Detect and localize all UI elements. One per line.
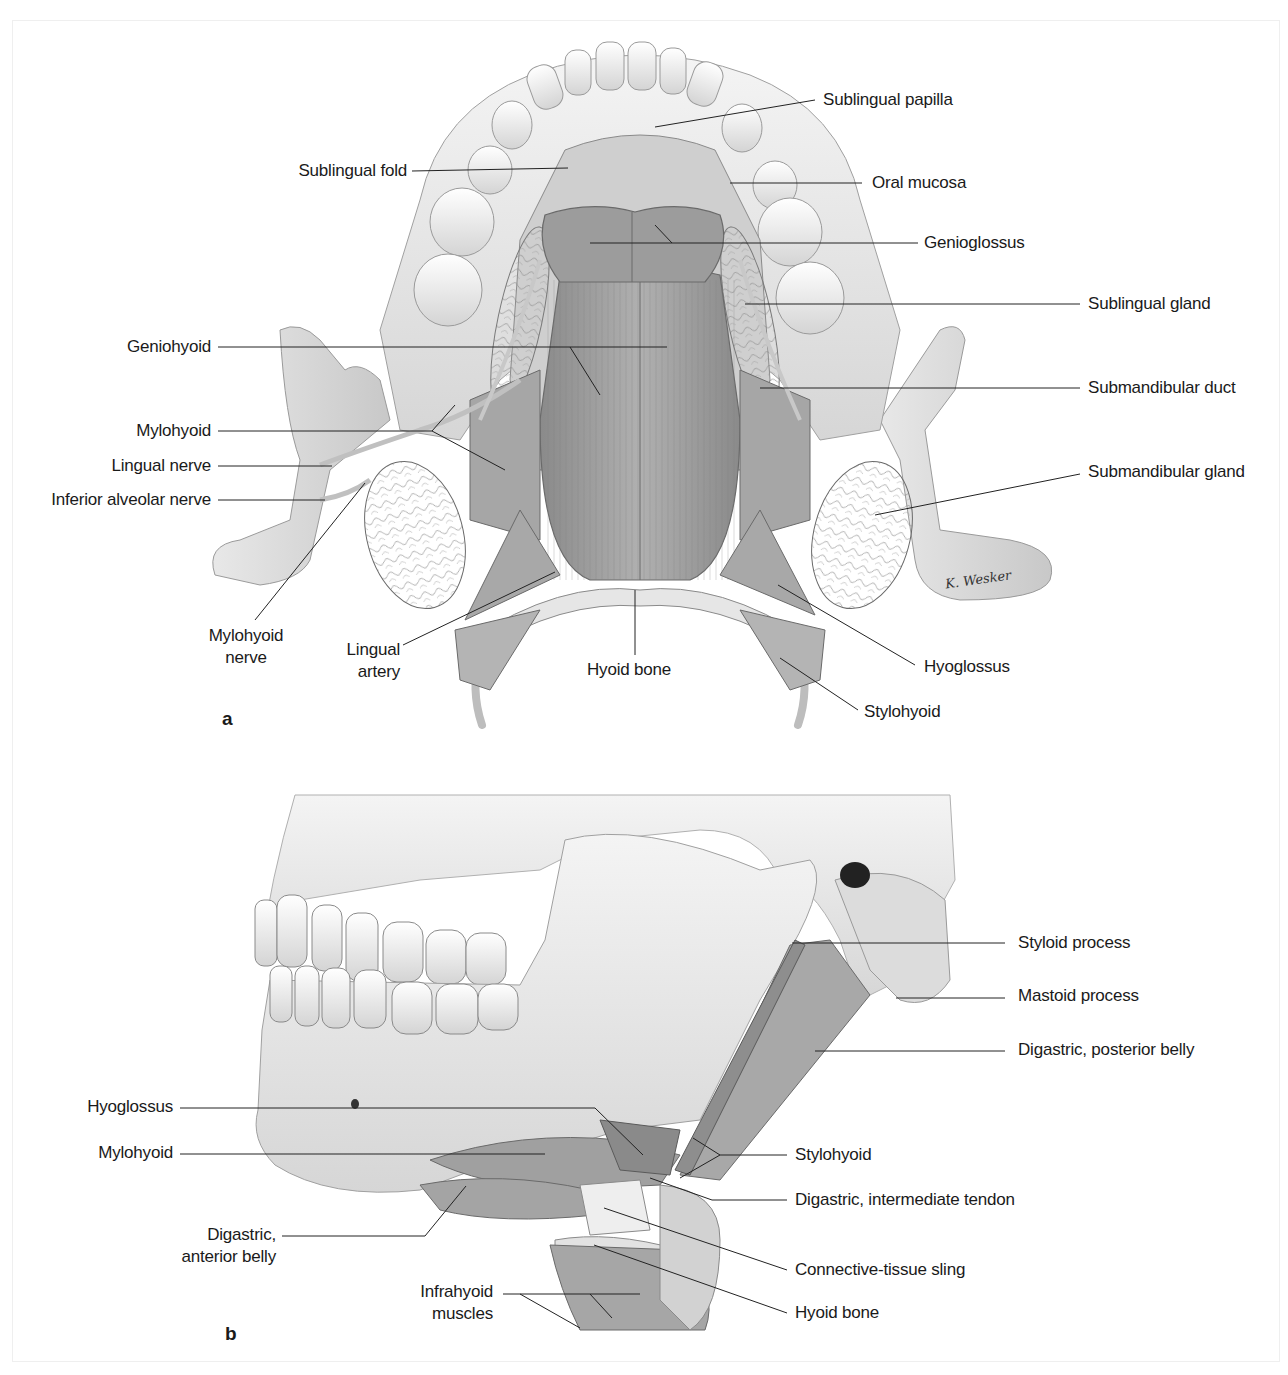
label-lingual-artery: Lingual artery xyxy=(330,639,400,683)
mylohyoid-left xyxy=(470,370,540,540)
panel-a-illustration xyxy=(213,42,1052,725)
label-digastric-intermediate-tendon: Digastric, intermediate tendon xyxy=(795,1189,1015,1211)
label-submandibular-gland: Submandibular gland xyxy=(1088,461,1245,483)
label-hyoid-bone-a: Hyoid bone xyxy=(587,659,671,681)
label-sublingual-papilla: Sublingual papilla xyxy=(823,89,953,111)
label-mylohyoid-b: Mylohyoid xyxy=(98,1142,173,1164)
genioglossus-muscle xyxy=(542,207,724,282)
label-digastric-anterior-belly-line1: Digastric, xyxy=(140,1224,276,1246)
label-oral-mucosa: Oral mucosa xyxy=(872,172,966,194)
stylohyoid-right xyxy=(740,610,825,690)
panel-b-illustration xyxy=(255,795,955,1330)
label-hyoid-bone-b: Hyoid bone xyxy=(795,1302,879,1324)
label-lingual-artery-line2: artery xyxy=(330,661,400,683)
label-hyoglossus-a: Hyoglossus xyxy=(924,656,1010,678)
label-digastric-anterior-belly: Digastric, anterior belly xyxy=(140,1224,276,1268)
label-stylohyoid-a: Stylohyoid xyxy=(864,701,940,723)
mandible-ramus-left xyxy=(213,327,390,585)
label-geniohyoid: Geniohyoid xyxy=(127,336,211,358)
label-lingual-artery-line1: Lingual xyxy=(330,639,400,661)
label-mylohyoid-nerve: Mylohyoid nerve xyxy=(196,625,296,669)
connective-tissue-sling xyxy=(580,1180,650,1235)
label-submandibular-duct: Submandibular duct xyxy=(1088,377,1236,399)
label-infrahyoid-muscles-line1: Infrahyoid xyxy=(395,1281,493,1303)
mandible-ramus-right xyxy=(880,327,1052,600)
label-digastric-posterior-belly: Digastric, posterior belly xyxy=(1018,1039,1194,1061)
label-genioglossus: Genioglossus xyxy=(924,232,1025,254)
label-infrahyoid-muscles: Infrahyoid muscles xyxy=(395,1281,493,1325)
label-mylohyoid-a: Mylohyoid xyxy=(136,420,211,442)
label-lingual-nerve: Lingual nerve xyxy=(112,455,211,477)
label-inferior-alveolar-nerve: Inferior alveolar nerve xyxy=(51,489,211,511)
label-sublingual-gland: Sublingual gland xyxy=(1088,293,1211,315)
panel-letter-b: b xyxy=(225,1323,237,1345)
label-hyoglossus-b: Hyoglossus xyxy=(87,1096,173,1118)
label-mylohyoid-nerve-line1: Mylohyoid xyxy=(196,625,296,647)
label-mastoid-process: Mastoid process xyxy=(1018,985,1139,1007)
label-digastric-anterior-belly-line2: anterior belly xyxy=(140,1246,276,1268)
label-styloid-process: Styloid process xyxy=(1018,932,1130,954)
mylohyoid-right xyxy=(740,370,810,540)
label-stylohyoid-b: Stylohyoid xyxy=(795,1144,871,1166)
panel-letter-a: a xyxy=(222,708,233,730)
stylohyoid-left xyxy=(455,610,540,690)
label-sublingual-fold: Sublingual fold xyxy=(298,160,407,182)
label-infrahyoid-muscles-line2: muscles xyxy=(395,1303,493,1325)
label-mylohyoid-nerve-line2: nerve xyxy=(196,647,296,669)
submandibular-gland-left xyxy=(349,450,481,620)
label-connective-tissue-sling: Connective-tissue sling xyxy=(795,1259,965,1281)
anatomy-illustration xyxy=(0,0,1288,1375)
